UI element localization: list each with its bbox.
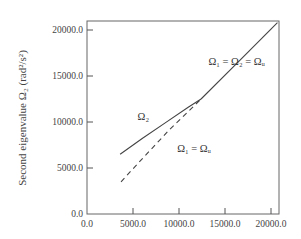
eigenvalue-chart: 0.05000.010000.015000.020000.0 0.05000.0… <box>0 0 301 239</box>
x-tick-label: 20000.0 <box>256 219 287 229</box>
y-tick-label: 0.0 <box>71 209 83 219</box>
x-axis-ticks: 0.05000.010000.015000.020000.0 <box>81 208 287 229</box>
y-tick-label: 15000.0 <box>52 71 83 81</box>
annotations: Ω₁ = Ω₂ = ΩᵤΩ₂Ω₁ = Ωᵤ <box>138 56 266 154</box>
annotation-label: Ω₁ = Ω₂ = Ωᵤ <box>208 56 265 67</box>
y-axis-label: Second eigenvalue Ω₂ (rad²/s²) <box>16 50 29 186</box>
x-tick-label: 10000.0 <box>164 219 195 229</box>
y-tick-label: 5000.0 <box>57 163 83 173</box>
y-tick-label: 10000.0 <box>52 117 83 127</box>
data-series <box>120 23 277 182</box>
x-tick-label: 5000.0 <box>120 219 146 229</box>
annotation-label: Ω₂ <box>138 111 150 122</box>
annotation-label: Ω₁ = Ωᵤ <box>177 143 211 154</box>
y-tick-label: 20000.0 <box>52 25 83 35</box>
x-tick-label: 0.0 <box>81 219 93 229</box>
x-tick-label: 15000.0 <box>210 219 241 229</box>
series-line <box>121 99 201 182</box>
